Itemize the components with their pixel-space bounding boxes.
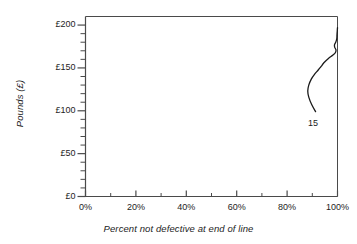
y-tick-label: £150 <box>32 62 76 72</box>
y-tick-label: £50 <box>32 148 76 158</box>
x-tick-label: 100% <box>316 202 357 212</box>
y-tick-label: £200 <box>32 19 76 29</box>
x-tick-label: 20% <box>114 202 158 212</box>
y-tick-label: £0 <box>32 191 76 201</box>
x-axis-title: Percent not defective at end of line <box>0 223 357 234</box>
x-tick-label: 80% <box>265 202 309 212</box>
y-axis-title: Pounds (£) <box>14 44 25 164</box>
x-tick-label: 60% <box>215 202 259 212</box>
x-tick-label: 0% <box>64 202 108 212</box>
x-tick-label: 40% <box>164 202 208 212</box>
series-annotation-label: 15 <box>308 118 318 128</box>
y-tick-label: £100 <box>32 105 76 115</box>
chart-figure: Pounds (£) Percent not defective at end … <box>0 0 357 244</box>
